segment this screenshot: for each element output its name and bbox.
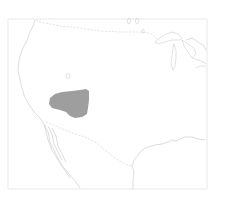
baja-california (44, 124, 70, 178)
mexico-east-coast (132, 166, 134, 189)
lake-michigan (171, 44, 176, 70)
map-frame (8, 19, 207, 189)
us-canada-border (36, 20, 158, 40)
gulf-coastline (132, 137, 205, 166)
great-salt-lake (66, 74, 70, 79)
range-map (0, 0, 233, 223)
range-area (49, 89, 89, 118)
lake-huron (182, 40, 196, 58)
map-canvas (0, 0, 233, 223)
small-lake (142, 29, 144, 33)
lake-erie-ontario (192, 58, 206, 68)
northeast-outline (186, 38, 206, 50)
lake-superior (155, 32, 182, 44)
